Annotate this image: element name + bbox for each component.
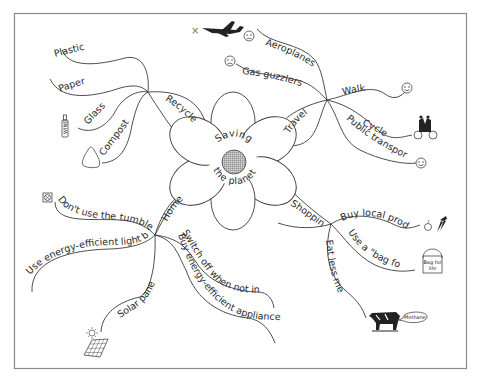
svg-text:life: life: [429, 265, 437, 271]
planet-globe-icon: [222, 150, 246, 174]
wine-bottle-icon: WINE: [62, 115, 69, 137]
mind-map: Saving the planet Recycle Plastic Paper …: [0, 0, 480, 378]
label-plastic[interactable]: Plastic: [53, 41, 85, 59]
svg-text:Methane: Methane: [404, 314, 426, 320]
label-paper[interactable]: Paper: [57, 75, 86, 94]
happy-face-icon: [402, 83, 412, 93]
happy-face-icon: [416, 158, 426, 168]
label-walk[interactable]: Walk: [341, 82, 366, 97]
label-glass[interactable]: Glass: [81, 100, 107, 126]
svg-text:WINE: WINE: [62, 121, 68, 134]
svg-text:×: ×: [191, 25, 199, 36]
compost-heap-icon: [82, 147, 99, 168]
cow-icon: [369, 312, 400, 331]
methane-bubble: Methane: [399, 312, 427, 323]
tumble-dryer-icon: [43, 193, 52, 202]
label-light-bulbs[interactable]: Use energy-efficient light bulbs: [0, 0, 151, 276]
crossed-out-aeroplane-icon: ×: [191, 21, 244, 37]
sad-face-icon: [244, 31, 254, 41]
label-tumble-dryer[interactable]: Don't use the tumble dryer: [0, 0, 159, 234]
label-compost[interactable]: Compost: [97, 117, 131, 158]
solar-panel-icon: [84, 327, 108, 357]
apple-carrots-icon: [425, 216, 448, 232]
bag-icon: Bag for life: [423, 249, 443, 273]
label-aeroplanes[interactable]: Aeroplanes: [264, 36, 317, 68]
label-gas-guzzlers[interactable]: Gas guzzlers: [242, 65, 304, 88]
label-home[interactable]: Home: [159, 193, 185, 223]
sad-face-icon: [225, 56, 235, 66]
tandem-bicycle-icon: [414, 115, 437, 139]
